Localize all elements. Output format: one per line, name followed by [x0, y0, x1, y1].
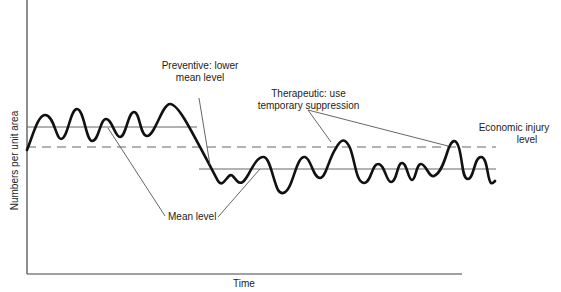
economic-injury-annotation: Economic injury level [472, 122, 556, 146]
pest-population-diagram [0, 0, 561, 292]
therapeutic-annotation: Therapeutic: use temporary suppression [256, 88, 361, 112]
preventive-annotation-line-2: mean level [155, 72, 245, 84]
y-axis-label: Numbers per unit area [9, 111, 20, 211]
economic-injury-annotation-line-2: level [472, 134, 556, 146]
therapeutic-annotation-line-1: Therapeutic: use [256, 88, 361, 100]
preventive-annotation-line-1: Preventive: lower [155, 60, 245, 72]
mean-level-leader-line-1 [108, 128, 165, 216]
population-curve [27, 104, 495, 193]
x-axis-label: Time [233, 278, 255, 290]
mean-level-annotation: Mean level [168, 211, 216, 223]
economic-injury-annotation-line-1: Economic injury [472, 122, 556, 134]
mean-level-leader-line-2 [218, 169, 260, 217]
preventive-annotation: Preventive: lower mean level [155, 60, 245, 84]
therapeutic-leader-line-2 [308, 110, 448, 146]
therapeutic-annotation-line-2: temporary suppression [256, 100, 361, 112]
